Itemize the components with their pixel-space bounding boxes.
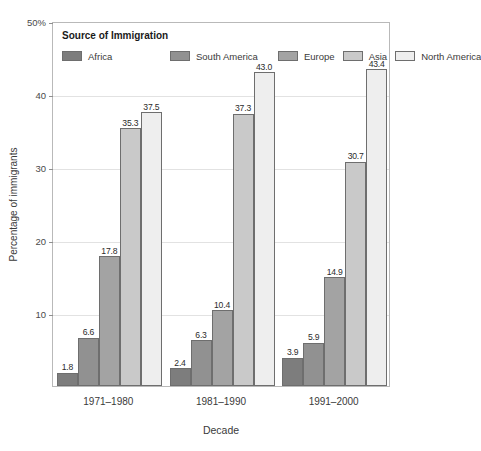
bar-north-america: 43.0 [254, 72, 275, 386]
bar-value-label: 3.9 [287, 347, 298, 357]
x-axis-tick-label: 1971–1980 [53, 396, 163, 407]
y-axis-tick-label: 40 [6, 90, 46, 101]
bar-asia: 30.7 [345, 162, 366, 386]
bar-north-america: 37.5 [141, 112, 162, 386]
bar-africa: 3.9 [282, 358, 303, 386]
bar-europe: 14.9 [324, 277, 345, 386]
bar-value-label: 5.9 [308, 332, 319, 342]
legend-label: North America [421, 51, 481, 62]
legend-swatch-icon [62, 51, 82, 61]
gridline [53, 242, 389, 243]
legend-item-north-america: North America [395, 48, 481, 64]
bar-north-america: 43.4 [366, 69, 387, 386]
bar-value-label: 37.5 [143, 102, 159, 112]
bar-south-america: 6.6 [78, 338, 99, 386]
legend-swatch-icon [395, 51, 415, 61]
y-axis-tick-mark [49, 315, 53, 316]
y-axis-tick-label: 30 [6, 163, 46, 174]
legend-item-europe: Europe [278, 48, 335, 64]
legend-swatch-icon [278, 51, 298, 61]
bar-south-america: 5.9 [303, 343, 324, 386]
y-axis-tick-mark [49, 23, 53, 24]
y-axis-tick-label: 50% [6, 17, 46, 28]
bar-value-label: 10.4 [214, 300, 230, 310]
bar-south-america: 6.3 [191, 340, 212, 386]
bar-europe: 17.8 [99, 256, 120, 386]
gridline [53, 169, 389, 170]
y-axis-tick-mark [49, 96, 53, 97]
legend-item-south-america: South America [170, 48, 270, 64]
legend-swatch-icon [170, 51, 190, 61]
plot-area: 1.86.617.835.337.52.46.310.437.343.03.95… [52, 22, 390, 387]
bar-value-label: 1.8 [62, 362, 73, 372]
bar-value-label: 6.6 [83, 327, 94, 337]
bar-value-label: 2.4 [174, 358, 185, 368]
x-axis-tick-label: 1981–1990 [166, 396, 276, 407]
legend-swatch-icon [343, 51, 363, 61]
legend: Source of Immigration AfricaSouth Americ… [62, 30, 292, 64]
x-axis-tick-label: 1991–2000 [279, 396, 389, 407]
legend-item-asia: Asia [343, 48, 387, 64]
bar-asia: 35.3 [120, 128, 141, 386]
bar-value-label: 37.3 [235, 103, 251, 113]
bar-value-label: 14.9 [327, 267, 343, 277]
x-axis-label: Decade [52, 424, 390, 436]
y-axis-label-container: Percentage of immigrants [6, 22, 20, 387]
bar-value-label: 6.3 [195, 330, 206, 340]
y-axis-tick-mark [49, 169, 53, 170]
legend-title: Source of Immigration [62, 30, 292, 41]
bar-value-label: 17.8 [101, 246, 117, 256]
bar-africa: 1.8 [57, 373, 78, 386]
y-axis-tick-label: 20 [6, 236, 46, 247]
bar-europe: 10.4 [212, 310, 233, 386]
y-axis-tick-mark [49, 242, 53, 243]
bar-value-label: 35.3 [122, 118, 138, 128]
legend-label: South America [196, 51, 258, 62]
y-axis-label: Percentage of immigrants [8, 22, 22, 387]
legend-items: AfricaSouth AmericaEuropeAsiaNorth Ameri… [62, 48, 292, 64]
legend-item-africa: Africa [62, 48, 162, 64]
legend-label: Asia [369, 51, 387, 62]
legend-label: Europe [304, 51, 335, 62]
y-axis-tick-label: 10 [6, 309, 46, 320]
bar-asia: 37.3 [233, 114, 254, 386]
bar-africa: 2.4 [170, 368, 191, 386]
bar-value-label: 30.7 [348, 151, 364, 161]
legend-label: Africa [88, 51, 112, 62]
gridline [53, 96, 389, 97]
